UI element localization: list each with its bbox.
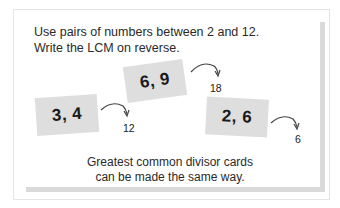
card-3-4: 3, 4	[35, 94, 99, 136]
curved-arrow-icon	[188, 58, 222, 80]
result-18: 18	[210, 82, 222, 94]
instruction-line-2: Write the LCM on reverse.	[34, 41, 180, 56]
card-label: 3, 4	[51, 104, 83, 126]
frame-shadow-bottom	[26, 187, 325, 192]
caption-line-1: Greatest common divisor cards	[0, 155, 340, 170]
result-12: 12	[123, 122, 135, 134]
card-label: 2, 6	[221, 106, 252, 128]
card-label: 6, 9	[139, 69, 172, 93]
result-6: 6	[295, 133, 301, 145]
instruction-line-1: Use pairs of numbers between 2 and 12.	[34, 25, 259, 40]
caption-line-2: can be made the same way.	[0, 170, 340, 185]
curved-arrow-icon	[268, 111, 302, 133]
curved-arrow-icon	[98, 98, 132, 120]
card-2-6: 2, 6	[205, 96, 269, 137]
